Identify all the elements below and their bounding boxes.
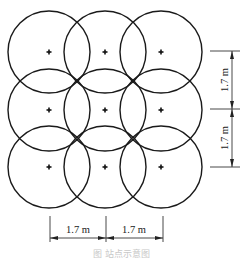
spacing-diagram: 1.7 m 1.7 m 1.7 m 1.7 m xyxy=(0,0,243,258)
vertical-dimension: 1.7 m 1.7 m xyxy=(210,51,240,167)
center-cross-icon xyxy=(47,50,52,55)
dimension-label-v2: 1.7 m xyxy=(219,126,230,150)
center-cross-icon xyxy=(47,108,52,113)
center-cross-icon xyxy=(159,108,164,113)
figure-caption: 图 站点示意图 xyxy=(0,247,243,258)
center-cross-icon xyxy=(159,50,164,55)
center-cross-icon xyxy=(103,165,108,170)
center-cross-icon xyxy=(103,108,108,113)
dimension-label-h1: 1.7 m xyxy=(66,224,90,235)
center-cross-icon xyxy=(103,50,108,55)
center-cross-icon xyxy=(159,165,164,170)
dimension-label-h2: 1.7 m xyxy=(122,224,146,235)
dimension-label-v1: 1.7 m xyxy=(219,68,230,92)
center-cross-icon xyxy=(47,165,52,170)
horizontal-dimension: 1.7 m 1.7 m xyxy=(50,216,163,242)
